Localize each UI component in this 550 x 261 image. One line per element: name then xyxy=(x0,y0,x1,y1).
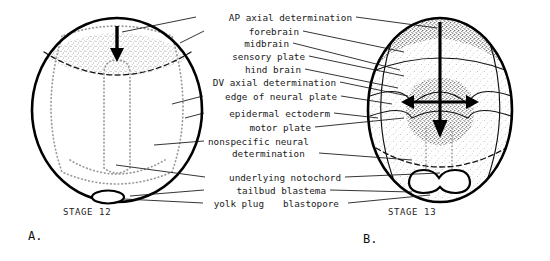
label-hind-brain: hind brain xyxy=(0,64,301,75)
label-yolk-plug: yolk plug xyxy=(0,198,264,209)
label-dv-axial-determination: DV axial determination xyxy=(0,77,336,88)
label-motor-plate: motor plate xyxy=(0,122,311,133)
label-midbrain: midbrain xyxy=(0,38,289,49)
label-determination: determination xyxy=(232,148,305,159)
label-sensory-plate: sensory plate xyxy=(0,51,305,62)
label-edge-of-neural-plate: edge of neural plate xyxy=(0,91,337,102)
panel-letter-b: B. xyxy=(363,232,377,246)
label-blastopore: blastopore xyxy=(283,198,339,209)
label-forebrain: forebrain xyxy=(0,26,299,37)
leader-blastopore xyxy=(348,195,430,203)
label-tailbud-blastema: tailbud blastema xyxy=(0,185,326,196)
label-underlying-notochord: underlying notochord xyxy=(0,172,341,183)
label-nonspecific-neural: nonspecific neural xyxy=(208,136,309,147)
panel-letter-a: A. xyxy=(28,229,42,243)
leader-forebrain-right xyxy=(303,31,404,52)
leader-tailbud-right xyxy=(330,190,412,192)
label-ap-axial-determination: AP axial determination xyxy=(0,12,352,23)
stage-13-caption: STAGE 13 xyxy=(388,207,436,217)
label-epidermal-ectoderm: epidermal ectoderm xyxy=(0,108,330,119)
embryo-b-stage-13: STAGE 13 B. xyxy=(360,16,520,246)
